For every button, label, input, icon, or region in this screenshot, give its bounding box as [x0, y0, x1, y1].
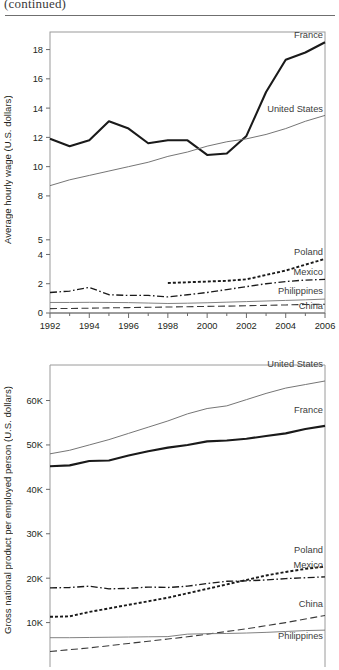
chart1-y-tick-label: 2: [38, 279, 43, 289]
chart2-y-tick-label: 30K: [26, 529, 43, 539]
chart1-series-line: [50, 299, 325, 303]
chart1-x-tick-label: 1996: [118, 321, 139, 331]
chart2-series-line: [50, 381, 325, 454]
chart1-y-tick-label: 0: [38, 308, 43, 318]
chart1-series-line: [50, 304, 325, 308]
chart1-plot: 0245810121416181992199419961998200020022…: [18, 20, 339, 350]
chart1-x-tick-label: 2000: [197, 321, 218, 331]
chart1-y-tick-label: 16: [33, 74, 43, 84]
chart1-x-tick-label: 1998: [158, 321, 179, 331]
chart2-y-tick-label: 10K: [26, 618, 43, 628]
chart2-series-line: [50, 426, 325, 466]
chart1-y-tick-label: 5: [38, 235, 43, 245]
chart2-plot: 10K20K30K40K50K60KUnited StatesFrancePol…: [18, 355, 339, 670]
chart2-series-label: Philippines: [278, 631, 323, 641]
chart2-series-label: Poland: [294, 545, 323, 555]
chart2-series-label: China: [299, 599, 324, 609]
chart1-y-tick-label: 12: [33, 133, 43, 143]
chart-hourly-wage: Average hourly wage (U.S. dollars) 02458…: [0, 20, 339, 350]
chart1-x-tick-label: 1992: [40, 321, 61, 331]
chart-gnp-per-employed: Gross national product per employed pers…: [0, 355, 339, 670]
chart2-y-axis-label: Gross national product per employed pers…: [2, 355, 13, 665]
chart1-y-tick-label: 18: [33, 45, 43, 55]
chart1-x-tick-label: 2004: [275, 321, 296, 331]
chart1-y-tick-label: 10: [33, 162, 43, 172]
chart1-y-axis-label: Average hourly wage (U.S. dollars): [2, 30, 13, 310]
chart2-y-tick-label: 60K: [26, 396, 43, 406]
chart2-series-line: [50, 577, 325, 589]
chart1-y-tick-label: 4: [38, 250, 43, 260]
chart2-y-tick-label: 50K: [26, 440, 43, 450]
chart2-series-label: Mexico: [294, 560, 323, 570]
chart2-y-tick-label: 40K: [26, 485, 43, 495]
chart1-series-line: [50, 42, 325, 155]
chart1-series-label: Mexico: [294, 267, 323, 277]
chart1-x-tick-label: 2002: [236, 321, 257, 331]
chart1-series-label: China: [299, 301, 324, 311]
figure-page: (continued) Average hourly wage (U.S. do…: [0, 0, 339, 670]
chart1-series-line: [50, 115, 325, 185]
chart1-series-label: Poland: [294, 247, 323, 257]
chart2-frame: [50, 365, 325, 667]
chart1-y-tick-label: 14: [33, 104, 43, 114]
chart1-series-label: Philippines: [278, 286, 323, 296]
chart1-x-tick-label: 2006: [315, 321, 336, 331]
continued-label: (continued): [4, 0, 66, 12]
header-divider: [5, 15, 335, 16]
chart2-series-line: [50, 567, 325, 617]
chart1-series-label: United States: [267, 104, 323, 114]
chart2-series-label: United States: [267, 359, 323, 369]
chart1-series-label: France: [294, 30, 323, 40]
chart2-y-tick-label: 20K: [26, 574, 43, 584]
chart2-series-label: France: [294, 405, 323, 415]
chart1-x-tick-label: 1994: [79, 321, 100, 331]
chart1-y-tick-label: 8: [38, 191, 43, 201]
